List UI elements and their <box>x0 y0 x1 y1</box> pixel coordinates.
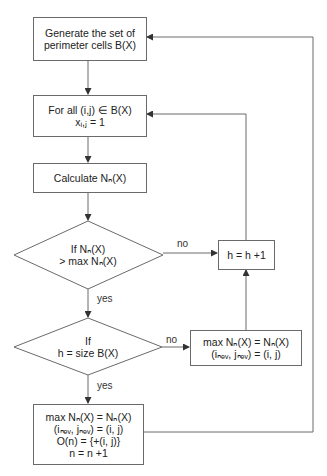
update-max-box: max Nₙ(X) = Nₙ(X) (iₙₑᵥ, jₙₑᵥ) = (i, j) <box>190 330 302 366</box>
update-max-line-2: (iₙₑᵥ, jₙₑᵥ) = (i, j) <box>211 348 281 360</box>
for-all-box: For all (i,j) ∈ B(X) xᵢ,ⱼ = 1 <box>33 95 147 137</box>
final-line-2: (iₙₑᵥ, jₙₑᵥ) = (i, j) <box>54 423 124 435</box>
final-line-1: max Nₙ(X) = Nₙ(X) <box>46 411 132 423</box>
decision2-yes-label: yes <box>97 380 113 391</box>
increment-h-line: h = h +1 <box>227 249 266 261</box>
final-line-4: n = n +1 <box>69 447 108 459</box>
generate-line-1: Generate the set of <box>45 27 135 39</box>
final-line-3: O(n) = {+(i, j)} <box>57 435 121 447</box>
decision1-no-label: no <box>177 238 188 249</box>
decision1-line-1: If Nₙ(X) <box>71 243 105 255</box>
decision2-text: If h = size B(X) <box>40 329 136 365</box>
increment-h-box: h = h +1 <box>218 240 275 270</box>
arrow-h-to-forall <box>147 114 246 240</box>
decision1-text: If Nₙ(X) > max Nₙ(X) <box>40 237 136 273</box>
arrow-final-to-generate <box>144 37 313 432</box>
decision2-line-2: h = size B(X) <box>58 347 118 359</box>
generate-line-2: perimeter cells B(X) <box>44 39 136 51</box>
update-max-line-1: max Nₙ(X) = Nₙ(X) <box>203 336 289 348</box>
for-all-line-1: For all (i,j) ∈ B(X) <box>48 104 132 116</box>
decision1-line-2: > max Nₙ(X) <box>59 255 116 267</box>
final-update-box: max Nₙ(X) = Nₙ(X) (iₙₑᵥ, jₙₑᵥ) = (i, j) … <box>33 404 144 465</box>
for-all-line-2: xᵢ,ⱼ = 1 <box>75 116 105 128</box>
decision1-yes-label: yes <box>97 293 113 304</box>
calculate-line-1: Calculate Nₙ(X) <box>54 172 126 184</box>
generate-perimeter-box: Generate the set of perimeter cells B(X) <box>33 17 147 61</box>
decision2-line-1: If <box>85 335 91 347</box>
calculate-box: Calculate Nₙ(X) <box>33 163 147 193</box>
decision2-no-label: no <box>166 334 177 345</box>
